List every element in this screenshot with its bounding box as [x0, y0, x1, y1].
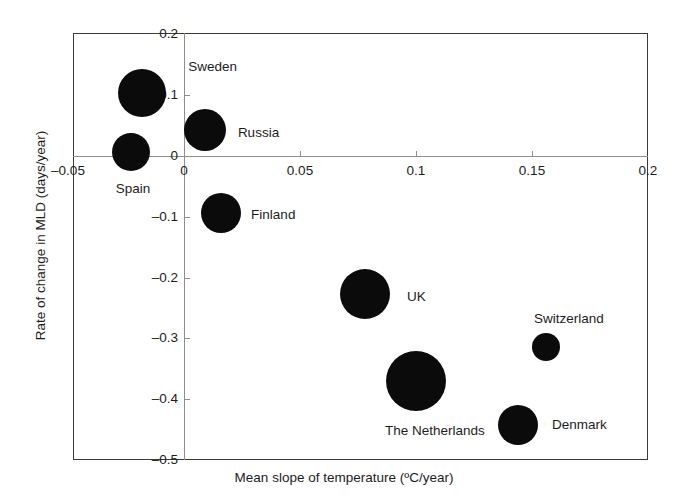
bubble-label: Sweden [188, 60, 237, 74]
y-axis-tick-label: –0.4 [126, 392, 178, 406]
bubble-label: Spain [116, 182, 151, 196]
y-axis-tick [184, 338, 190, 339]
bubble-marker[interactable] [498, 405, 538, 445]
x-axis-tick-label: 0.2 [639, 164, 658, 178]
bubble-label: Russia [238, 126, 279, 140]
x-axis-tick-label: 0 [180, 164, 188, 178]
x-axis-tick-label: 0.15 [519, 164, 545, 178]
bubble-marker[interactable] [112, 133, 150, 171]
y-axis-tick-label: –0.3 [126, 332, 178, 346]
y-axis-tick-label: 0.2 [126, 28, 178, 42]
bubble-label: UK [407, 290, 426, 304]
bubble-label: Denmark [552, 418, 607, 432]
x-axis-tick [184, 151, 185, 157]
x-axis-tick [300, 151, 301, 157]
bubble-marker[interactable] [386, 351, 446, 411]
bubble-marker[interactable] [532, 333, 560, 361]
y-axis-tick-label: –0.1 [126, 210, 178, 224]
vertical-zero-axis [184, 33, 185, 460]
bubble-marker[interactable] [340, 269, 390, 319]
y-axis-title: Rate of change in MLD (days/year) [33, 26, 48, 446]
bubble-marker[interactable] [201, 193, 241, 233]
bubble-label: The Netherlands [385, 424, 485, 438]
x-axis-tick [532, 151, 533, 157]
x-axis-tick-label: 0.05 [287, 164, 313, 178]
y-axis-tick-label: –0.2 [126, 271, 178, 285]
x-axis-tick-label: –0.05 [51, 164, 85, 178]
bubble-label: Finland [251, 208, 295, 222]
y-axis-tick [184, 217, 190, 218]
x-axis-tick-label: 0.1 [407, 164, 426, 178]
bubble-chart-figure: –0.0500.050.10.150.20.20.10–0.1–0.2–0.3–… [0, 0, 688, 502]
bubble-label: Switzerland [534, 312, 604, 326]
y-axis-tick-label: –0.5 [126, 453, 178, 467]
y-axis-tick [184, 399, 190, 400]
y-axis-tick [184, 95, 190, 96]
y-axis-tick [184, 278, 190, 279]
x-axis-title: Mean slope of temperature (ºC/year) [0, 470, 688, 485]
bubble-marker[interactable] [184, 109, 226, 151]
x-axis-tick [416, 151, 417, 157]
